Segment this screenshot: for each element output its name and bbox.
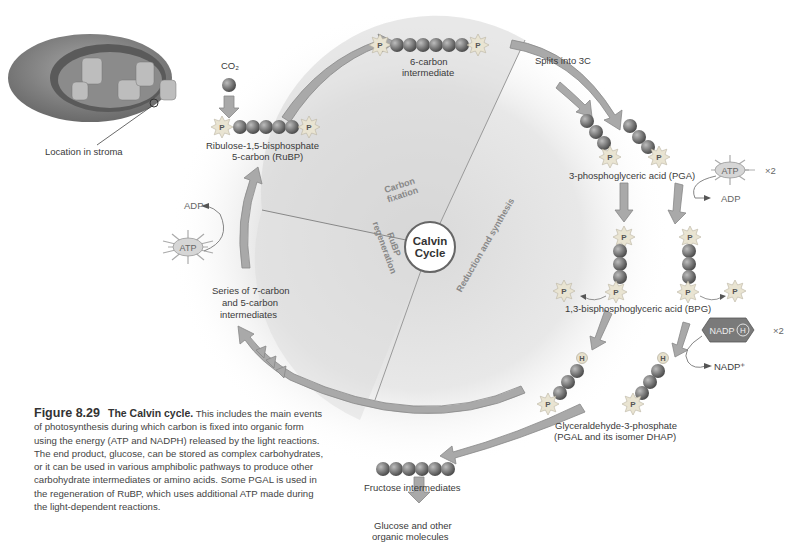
svg-text:ATP: ATP bbox=[180, 243, 197, 253]
rubp-label-line2: 5-carbon (RuBP) bbox=[232, 151, 303, 163]
series-label-line2: and 5-carbon bbox=[222, 297, 278, 309]
bpg-molecule-2 bbox=[677, 226, 746, 303]
calvin-cycle-diagram: P H bbox=[0, 0, 803, 559]
chloroplast-inset bbox=[8, 34, 176, 145]
adp-label-right: ADP bbox=[721, 193, 741, 205]
atp-text: ATP bbox=[722, 166, 739, 176]
fructose-label: Fructose intermediates bbox=[364, 482, 461, 494]
nadph-hexagon: NADP H bbox=[702, 318, 754, 342]
glucose-label-line1: Glucose and other bbox=[374, 520, 452, 532]
rubp-label-line1: Ribulose-1,5-bisphosphate bbox=[206, 140, 319, 152]
nadp-plus-label: NADP⁺ bbox=[714, 361, 745, 373]
splits-label: Splits into 3C bbox=[535, 55, 591, 67]
pgal-label-line2: (PGAL and its isomer DHAP) bbox=[554, 431, 676, 443]
figure-caption: Figure 8.29 The Calvin cycle. This inclu… bbox=[34, 407, 324, 513]
six-carbon-label-line2: intermediate bbox=[402, 67, 454, 79]
adp-label-left: ADP bbox=[184, 200, 204, 212]
glucose-label-line2: organic molecules bbox=[372, 531, 449, 543]
co2-molecule bbox=[222, 78, 236, 92]
co2-label: CO₂ bbox=[221, 60, 239, 72]
inset-label: Location in stroma bbox=[45, 146, 123, 158]
atp-multiplier-label: ×2 bbox=[765, 165, 776, 177]
pga-label: 3-phosphoglyceric acid (PGA) bbox=[569, 170, 695, 182]
calvin-cycle-center: Calvin Cycle bbox=[404, 221, 456, 273]
svg-text:NADP: NADP bbox=[709, 326, 734, 336]
pgal-label-line1: Glyceraldehyde-3-phosphate bbox=[555, 420, 677, 432]
figure-title: The Calvin cycle. bbox=[108, 407, 193, 419]
nadph-multiplier-label: ×2 bbox=[773, 325, 784, 337]
figure-caption-body: This includes the main events of photosy… bbox=[34, 408, 323, 512]
figure-number: Figure 8.29 bbox=[34, 406, 100, 420]
six-carbon-label-line1: 6-carbon bbox=[410, 56, 448, 68]
atp-burst-right: ATP bbox=[711, 155, 755, 185]
series-label-line1: Series of 7-carbon bbox=[212, 285, 290, 297]
svg-text:H: H bbox=[740, 326, 746, 335]
series-label-line3: intermediates bbox=[220, 309, 277, 321]
bpg-label: 1,3-bisphosphoglyceric acid (BPG) bbox=[565, 303, 711, 315]
